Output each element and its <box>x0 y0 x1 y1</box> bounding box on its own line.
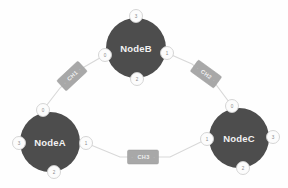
nodea-port-bottom-label: 2 <box>53 170 56 175</box>
nodes-layer: NodeBNodeANodeC <box>20 18 269 172</box>
nodec-port-top[interactable]: 0 <box>226 100 239 113</box>
nodec-port-right[interactable]: 3 <box>267 131 280 144</box>
nodea-port-bottom[interactable]: 2 <box>48 166 61 179</box>
nodeb-port-right-label: 1 <box>166 51 169 56</box>
nodec-port-bottom-label: 2 <box>242 166 245 171</box>
channel-tick-right-ch3: · <box>153 156 154 160</box>
nodeb-port-left[interactable]: 0 <box>99 49 112 62</box>
channel-tick-left-ch3: · <box>131 156 132 160</box>
nodeb-port-top[interactable]: 3 <box>130 10 143 23</box>
node-nodeb[interactable]: NodeB <box>106 18 166 78</box>
nodeb-port-top-label: 3 <box>135 14 138 19</box>
node-label-nodea: NodeA <box>34 137 66 148</box>
nodea-port-top[interactable]: 0 <box>37 104 50 117</box>
node-label-nodec: NodeC <box>223 133 255 144</box>
nodea-port-right-label: 1 <box>85 141 88 146</box>
channel-label-ch3[interactable]: ·CH3· <box>128 150 159 164</box>
channel-text-ch3: CH3 <box>137 154 149 160</box>
nodec-port-right-label: 3 <box>272 135 275 140</box>
nodec-port-left[interactable]: 1 <box>201 133 214 146</box>
nodeb-port-bottom[interactable]: 2 <box>131 73 144 86</box>
nodec-port-left-label: 1 <box>206 137 209 142</box>
nodec-port-top-label: 0 <box>231 104 234 109</box>
nodea-port-left-label: 3 <box>18 141 21 146</box>
node-nodec[interactable]: NodeC <box>209 108 269 168</box>
nodec-port-bottom[interactable]: 2 <box>237 162 250 175</box>
node-nodea[interactable]: NodeA <box>20 112 80 172</box>
nodea-port-left[interactable]: 3 <box>13 137 26 150</box>
channel-label-ch2[interactable]: ·CH2· <box>190 60 222 88</box>
nodea-port-top-label: 0 <box>42 108 45 113</box>
nodeb-port-right[interactable]: 1 <box>161 47 174 60</box>
topology-canvas: NodeBNodeANodeC 301201230132 ·CH1··CH2··… <box>0 0 288 188</box>
nodeb-port-bottom-label: 2 <box>136 77 139 82</box>
node-label-nodeb: NodeB <box>120 43 152 54</box>
nodeb-port-left-label: 0 <box>104 53 107 58</box>
nodea-port-right[interactable]: 1 <box>80 137 93 150</box>
